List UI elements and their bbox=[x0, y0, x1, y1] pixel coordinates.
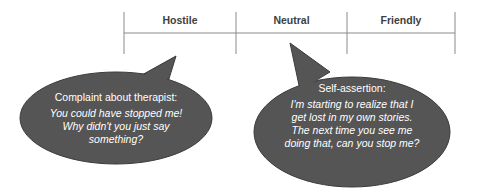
scale-label-friendly: Friendly bbox=[347, 14, 455, 26]
hostility-scale-labels: Hostile Neutral Friendly bbox=[0, 0, 478, 60]
quote-line: doing that, can you stop me? bbox=[262, 137, 442, 150]
scale-label-neutral: Neutral bbox=[236, 14, 347, 26]
self-assertion-quote: I'm starting to realize that I get lost … bbox=[262, 98, 442, 150]
self-assertion-title: Self-assertion: bbox=[262, 82, 442, 94]
quote-line: The next time you see me bbox=[262, 124, 442, 137]
complaint-title: Complaint about therapist: bbox=[30, 91, 202, 103]
scale-label-hostile: Hostile bbox=[124, 14, 236, 26]
complaint-bubble-text: Complaint about therapist: You could hav… bbox=[30, 91, 202, 146]
quote-line: get lost in my own stories. bbox=[262, 111, 442, 124]
quote-line: I'm starting to realize that I bbox=[262, 98, 442, 111]
quote-line: You could have stopped me! bbox=[30, 107, 202, 120]
quote-line: something? bbox=[30, 133, 202, 146]
complaint-quote: You could have stopped me! Why didn't yo… bbox=[30, 107, 202, 146]
quote-line: Why didn't you just say bbox=[30, 120, 202, 133]
self-assertion-bubble-text: Self-assertion: I'm starting to realize … bbox=[262, 82, 442, 150]
